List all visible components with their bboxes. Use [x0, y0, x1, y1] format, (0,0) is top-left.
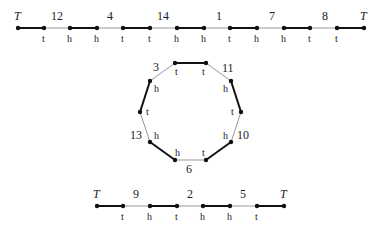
end-label: t	[228, 33, 231, 44]
cycle-num-3: 3	[153, 60, 159, 74]
end-label: h	[147, 211, 152, 222]
end-label: t	[148, 33, 151, 44]
diagram-canvas: T T 12 4 14 1 7 8 t h h t t h h t h h t …	[0, 0, 381, 231]
cycle: 3 11 10 6 13 t t h t h t h h t h	[130, 60, 249, 176]
end-label: h	[175, 147, 180, 158]
top-num-2: 14	[157, 9, 169, 23]
end-label: t	[308, 33, 311, 44]
top-path: T T 12 4 14 1 7 8 t h h t t h h t h h t …	[14, 9, 368, 44]
end-label: h	[174, 33, 179, 44]
bottom-num-2: 2	[187, 187, 193, 201]
end-label: h	[223, 130, 228, 141]
bottom-end-left: T	[93, 187, 101, 201]
end-label: h	[281, 33, 286, 44]
top-num-4: 7	[269, 9, 275, 23]
end-label: t	[121, 211, 124, 222]
end-label: h	[200, 211, 205, 222]
end-label: t	[146, 106, 149, 117]
top-num-5: 8	[322, 9, 328, 23]
end-label: t	[175, 66, 178, 77]
end-label: h	[94, 33, 99, 44]
end-label: t	[202, 66, 205, 77]
top-num-0: 12	[51, 9, 63, 23]
bottom-path: T T 9 2 5 t h t h h t	[93, 187, 288, 222]
bottom-end-right: T	[280, 187, 288, 201]
end-label: h	[154, 130, 159, 141]
cycle-num-10: 10	[237, 128, 249, 142]
bottom-num-9: 9	[133, 187, 139, 201]
end-label: t	[42, 33, 45, 44]
end-label: h	[67, 33, 72, 44]
end-label: t	[121, 33, 124, 44]
top-num-3: 1	[216, 9, 222, 23]
end-label: h	[227, 211, 232, 222]
bottom-num-5: 5	[240, 187, 246, 201]
cycle-num-6: 6	[186, 162, 192, 176]
end-label: t	[335, 33, 338, 44]
end-label: h	[254, 33, 259, 44]
top-num-1: 4	[107, 9, 113, 23]
end-label: t	[231, 106, 234, 117]
end-label: h	[223, 83, 228, 94]
end-label: h	[201, 33, 206, 44]
end-label: t	[202, 147, 205, 158]
end-label: t	[255, 211, 258, 222]
cycle-num-11: 11	[222, 61, 234, 75]
top-end-left: T	[14, 9, 22, 23]
end-label: h	[154, 83, 159, 94]
top-end-right: T	[360, 9, 368, 23]
end-label: t	[175, 211, 178, 222]
cycle-num-13: 13	[130, 128, 142, 142]
